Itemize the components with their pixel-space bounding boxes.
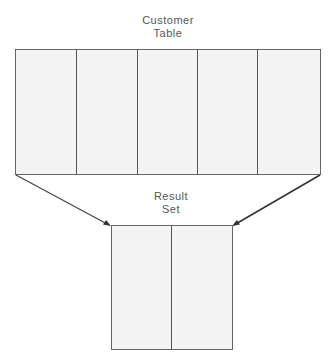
right-arrowhead-icon xyxy=(232,220,240,226)
left-arrowhead-icon xyxy=(103,220,111,226)
left-connector-line xyxy=(16,175,109,225)
result-set-label-line1: Result xyxy=(131,190,211,203)
customer-table-label: Customer Table xyxy=(128,14,208,40)
customer-table-label-line2: Table xyxy=(128,27,208,40)
result-set-table xyxy=(112,226,233,350)
projection-diagram xyxy=(0,0,335,360)
result-set-label: Result Set xyxy=(131,190,211,216)
customer-table-label-line1: Customer xyxy=(128,14,208,27)
result-set-label-line2: Set xyxy=(131,203,211,216)
right-connector-line xyxy=(234,175,320,225)
customer-table xyxy=(16,50,321,175)
customer-table-outline xyxy=(16,50,321,175)
